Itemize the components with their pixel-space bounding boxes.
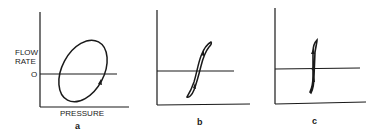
panel-c-loop [310,40,317,93]
y-axis-label-line1: FLOW [15,48,39,57]
panel-a-caption: a [75,121,81,131]
panel-a-loop [49,32,117,110]
panel-b: b [157,10,250,127]
panel-a: FLOW RATE O PRESSURE a [15,12,129,131]
zero-label: O [31,70,37,79]
panel-c-zero-line [275,68,360,69]
flow-pressure-diagram: FLOW RATE O PRESSURE a b c [0,0,370,134]
x-axis-label: PRESSURE [60,109,104,118]
panel-c: c [275,8,366,126]
zero-crossing-dot [312,68,315,71]
panel-c-x-axis [275,102,366,104]
panel-b-caption: b [197,117,203,127]
panel-b-loop [187,42,211,97]
panel-c-caption: c [312,116,317,126]
panel-b-x-axis [157,104,250,105]
y-axis-label-line2: RATE [15,57,36,66]
